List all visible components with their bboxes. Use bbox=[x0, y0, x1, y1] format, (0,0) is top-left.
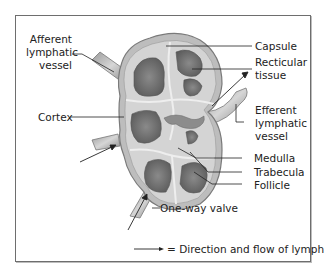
label-reticular-tissue: Recticular tissue bbox=[255, 56, 307, 82]
label-capsule: Capsule bbox=[255, 40, 297, 53]
label-trabecula: Trabecula bbox=[254, 166, 305, 179]
legend-text: = Direction and flow of lymph bbox=[167, 243, 324, 256]
label-reticular-line2: tissue bbox=[255, 69, 307, 82]
label-medulla: Medulla bbox=[254, 152, 295, 165]
label-afferent-line2: lymphatic bbox=[26, 46, 72, 59]
label-efferent-vessel: Efferent lymphatic vessel bbox=[255, 104, 307, 143]
label-cortex: Cortex bbox=[38, 111, 73, 124]
label-reticular-line1: Recticular bbox=[255, 56, 307, 69]
label-afferent-vessel: Afferent lymphatic vessel bbox=[26, 33, 72, 72]
label-follicle: Follicle bbox=[254, 179, 290, 192]
label-afferent-line1: Afferent bbox=[26, 33, 72, 46]
legend-arrow-icon bbox=[134, 247, 164, 251]
afferent-vessel-left bbox=[92, 134, 120, 150]
label-efferent-line2: lymphatic bbox=[255, 117, 307, 130]
label-afferent-line3: vessel bbox=[26, 59, 72, 72]
label-one-way-valve: One-way valve bbox=[160, 202, 238, 215]
label-efferent-line1: Efferent bbox=[255, 104, 307, 117]
label-efferent-line3: vessel bbox=[255, 130, 307, 143]
